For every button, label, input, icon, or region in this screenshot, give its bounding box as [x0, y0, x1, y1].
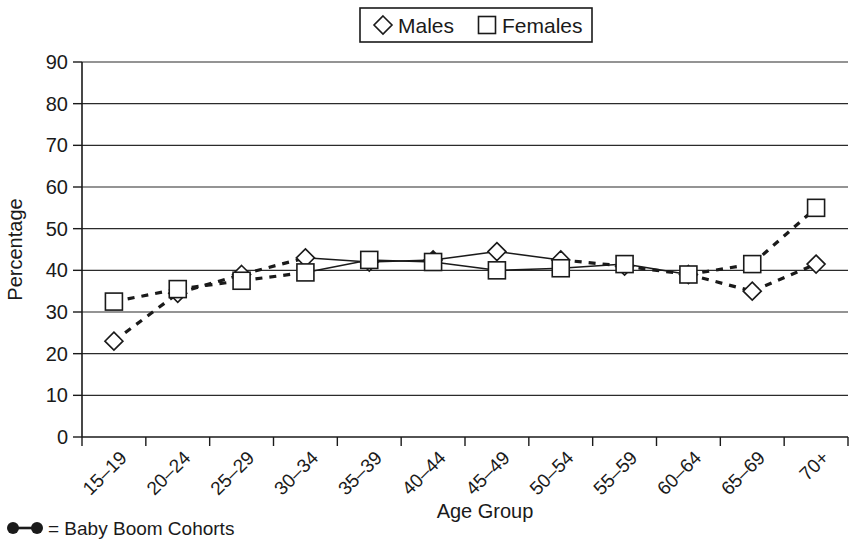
data-point-marker-square	[233, 272, 250, 289]
y-tick-label: 10	[46, 384, 68, 406]
legend-label: Females	[502, 14, 583, 37]
data-point-marker-square	[297, 264, 314, 281]
data-point-marker-square	[488, 262, 505, 279]
x-tick-label: 60–64	[653, 447, 706, 500]
series-segment-babyboom	[688, 264, 752, 274]
data-point-marker-diamond	[743, 282, 761, 300]
x-tick-label: 50–54	[525, 447, 578, 500]
data-point-marker-square	[616, 256, 633, 273]
y-tick-label: 90	[46, 51, 68, 73]
data-point-marker-square	[808, 199, 825, 216]
data-point-marker-square	[744, 256, 761, 273]
age-group-percentage-line-chart: 0102030405060708090 15–1920–2425–2930–34…	[0, 0, 861, 550]
footnote-group: = Baby Boom Cohorts	[7, 518, 234, 539]
data-point-marker-diamond	[105, 332, 123, 350]
y-axis-title: Percentage	[4, 198, 26, 300]
series-segment-babyboom	[114, 293, 178, 341]
x-tick-label: 20–24	[142, 447, 195, 500]
legend-label: Males	[398, 14, 454, 37]
y-tick-label: 20	[46, 343, 68, 365]
x-tick-marks-group	[82, 437, 848, 446]
data-point-marker-diamond	[488, 243, 506, 261]
series-segment-babyboom	[242, 272, 306, 280]
y-tick-label: 0	[57, 426, 68, 448]
series-segment-babyboom	[752, 264, 816, 291]
x-tick-label: 40–44	[398, 447, 451, 500]
legend-items-group: MalesFemales	[374, 14, 583, 37]
series-segment-solid	[433, 262, 497, 270]
x-axis-title: Age Group	[437, 500, 534, 522]
gridlines-group	[82, 62, 848, 395]
x-tick-labels-group: 15–1920–2425–2930–3435–3940–4445–4950–54…	[79, 447, 833, 500]
x-tick-label: 70+	[795, 447, 833, 485]
y-tick-labels-group: 0102030405060708090	[46, 51, 68, 448]
y-tick-label: 30	[46, 301, 68, 323]
series-segment-babyboom	[752, 208, 816, 264]
x-tick-label: 30–34	[270, 447, 323, 500]
x-tick-label: 65–69	[717, 447, 769, 499]
footnote-text: = Baby Boom Cohorts	[48, 518, 234, 539]
data-point-marker-square	[361, 251, 378, 268]
y-tick-marks-group	[73, 62, 82, 437]
y-tick-label: 40	[46, 259, 68, 281]
series-segment-solid	[433, 252, 497, 260]
x-tick-label: 45–49	[462, 447, 514, 499]
legend-marker-square	[479, 17, 496, 34]
data-point-marker-square	[680, 266, 697, 283]
y-tick-label: 60	[46, 176, 68, 198]
data-point-marker-square	[552, 260, 569, 277]
y-tick-label: 70	[46, 134, 68, 156]
x-tick-label: 35–39	[334, 447, 386, 499]
chart-container: 0102030405060708090 15–1920–2425–2930–34…	[0, 0, 861, 550]
series-segment-babyboom	[178, 281, 242, 289]
x-tick-label: 55–59	[589, 447, 641, 499]
footnote-dot-right-icon	[31, 522, 43, 534]
series-segment-babyboom	[242, 258, 306, 275]
data-point-marker-square	[425, 254, 442, 271]
series-segment-babyboom	[114, 289, 178, 302]
y-tick-label: 50	[46, 218, 68, 240]
series-lines-group	[114, 208, 816, 341]
series-segment-solid	[497, 252, 561, 260]
footnote-dot-left-icon	[7, 522, 19, 534]
series-segment-babyboom	[688, 275, 752, 292]
data-point-marker-square	[105, 293, 122, 310]
y-tick-label: 80	[46, 93, 68, 115]
x-tick-label: 25–29	[206, 447, 258, 499]
chart-legend: MalesFemales	[360, 8, 592, 42]
x-tick-label: 15–19	[79, 447, 131, 499]
data-point-marker-square	[169, 281, 186, 298]
series-markers-group	[105, 199, 825, 350]
